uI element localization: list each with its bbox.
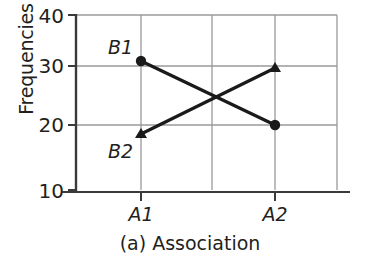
series-label-b1: B1 <box>108 36 133 58</box>
series-b1 <box>136 56 280 130</box>
data-point-b2-a2 <box>269 62 281 72</box>
x-tick-label-a1: A1 <box>111 203 171 225</box>
y-axis-spine <box>68 14 76 191</box>
chart-figure: Frequencies 40 30 20 10 <box>0 0 384 264</box>
plot-canvas <box>0 0 384 264</box>
series-b2 <box>135 62 281 138</box>
x-axis-spine <box>62 192 350 201</box>
x-tick-label-a2: A2 <box>245 203 305 225</box>
neighbor-figure-clip: Interval values <box>358 0 384 264</box>
horizontal-gridlines <box>76 66 337 125</box>
series-label-b2: B2 <box>108 140 133 162</box>
data-point-b1-a1 <box>136 56 146 66</box>
figure-caption: (a) Association <box>60 232 320 254</box>
data-point-b1-a2 <box>270 120 280 130</box>
